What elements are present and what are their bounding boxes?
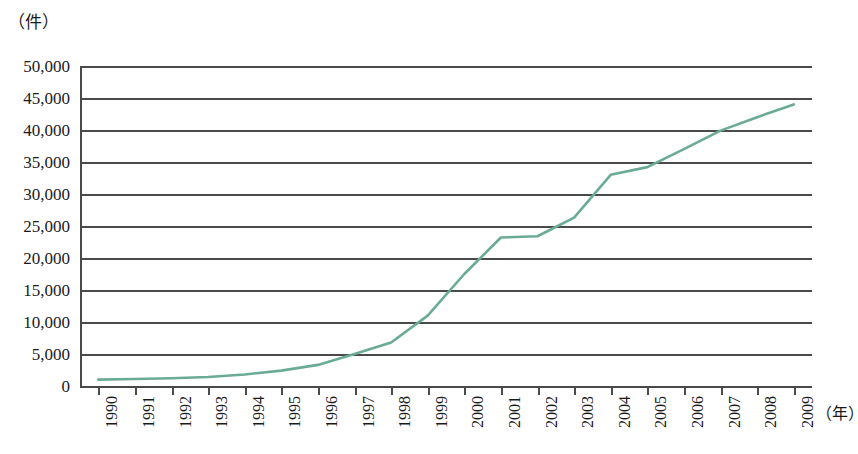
x-axis-tick — [318, 386, 320, 395]
x-axis-tick — [355, 386, 357, 395]
x-axis-tick-label: 1996 — [324, 396, 340, 428]
x-axis-tick — [391, 386, 393, 395]
x-axis-tick — [428, 386, 430, 395]
x-axis-tick-label: 2009 — [800, 396, 816, 428]
x-axis-tick-label: 1991 — [141, 396, 157, 428]
y-axis-tick-label: 20,000 — [23, 250, 70, 267]
y-axis-tick-labels: 05,00010,00015,00020,00025,00030,00035,0… — [0, 66, 74, 386]
x-axis-tick-label: 2005 — [653, 396, 669, 428]
x-axis-tick-label: 2007 — [727, 396, 743, 428]
y-axis-tick-label: 25,000 — [23, 218, 70, 235]
x-axis-tick — [538, 386, 540, 395]
x-axis-tick-label: 1997 — [361, 396, 377, 428]
y-axis-tick-label: 35,000 — [23, 154, 70, 171]
x-axis-tick-label: 2001 — [507, 396, 523, 428]
x-axis-tick-label: 1999 — [434, 396, 450, 428]
figure-caption — [0, 444, 850, 454]
x-axis-tick — [611, 386, 613, 395]
x-axis-tick — [464, 386, 466, 395]
x-axis-tick-label: 1992 — [178, 396, 194, 428]
y-axis-unit-label: （件） — [8, 8, 59, 33]
x-axis-tick-label: 1994 — [251, 396, 267, 428]
x-axis-tick — [172, 386, 174, 395]
x-axis-tick — [281, 386, 283, 395]
x-axis-tick — [647, 386, 649, 395]
x-axis-tick-label: 1993 — [214, 396, 230, 428]
y-axis-tick-label: 5,000 — [32, 346, 70, 363]
x-axis-tick — [757, 386, 759, 395]
x-axis-tick-label: 2003 — [580, 396, 596, 428]
x-axis-tick — [684, 386, 686, 395]
data-series-line — [80, 66, 812, 386]
x-axis-tick — [98, 386, 100, 395]
x-axis-tick-label: 2002 — [544, 396, 560, 428]
x-axis-tick — [574, 386, 576, 395]
x-axis-tick-label: 2006 — [690, 396, 706, 428]
y-axis-tick-label: 45,000 — [23, 90, 70, 107]
x-axis-tick-label: 1998 — [397, 396, 413, 428]
x-axis-tick — [245, 386, 247, 395]
x-axis-tick-label: 2000 — [470, 396, 486, 428]
y-axis-tick-label: 40,000 — [23, 122, 70, 139]
x-axis-tick — [135, 386, 137, 395]
x-axis-tick-label: 1995 — [287, 396, 303, 428]
x-axis-tick-label: 2008 — [763, 396, 779, 428]
y-axis-tick-label: 15,000 — [23, 282, 70, 299]
y-axis-tick-label: 0 — [62, 378, 71, 395]
y-axis-tick-label: 50,000 — [23, 58, 70, 75]
y-axis-tick-label: 30,000 — [23, 186, 70, 203]
x-axis-tick-label: 2004 — [617, 396, 633, 428]
x-axis-tick-label: 1990 — [104, 396, 120, 428]
x-axis-tick — [721, 386, 723, 395]
x-axis-unit-label: （年） — [816, 400, 858, 424]
y-axis-tick-label: 10,000 — [23, 314, 70, 331]
x-axis-tick — [501, 386, 503, 395]
x-axis-ticks — [80, 386, 812, 396]
x-axis-tick — [794, 386, 796, 395]
x-axis-tick — [208, 386, 210, 395]
